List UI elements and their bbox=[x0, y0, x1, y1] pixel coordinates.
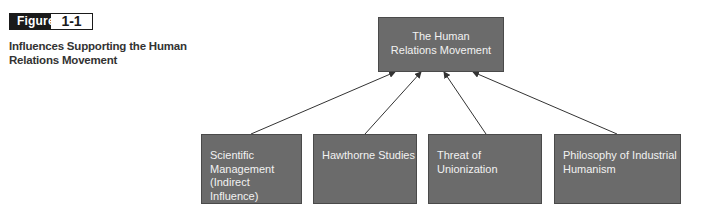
node-line: Humanism bbox=[563, 163, 680, 177]
node-line: Threat of Unionization bbox=[437, 149, 541, 176]
node-line: Philosophy of Industrial bbox=[563, 149, 680, 163]
arrow-threat-of-unionization bbox=[444, 72, 486, 134]
node-threat-of-unionization: Threat of Unionization bbox=[428, 134, 542, 204]
node-line: (Indirect Influence) bbox=[210, 176, 301, 203]
node-line: Management bbox=[210, 163, 301, 177]
root-line-2: Relations Movement bbox=[379, 44, 503, 58]
node-line: Hawthorne Studies bbox=[322, 149, 416, 163]
root-line-1: The Human bbox=[379, 30, 503, 44]
arrow-industrial-humanism bbox=[473, 72, 617, 134]
root-node-human-relations-movement: The Human Relations Movement bbox=[378, 17, 504, 72]
node-hawthorne-studies: Hawthorne Studies bbox=[313, 134, 417, 204]
node-scientific-management: Scientific Management (Indirect Influenc… bbox=[201, 134, 302, 204]
node-line: Scientific bbox=[210, 149, 301, 163]
node-philosophy-of-industrial-humanism: Philosophy of Industrial Humanism bbox=[554, 134, 681, 204]
